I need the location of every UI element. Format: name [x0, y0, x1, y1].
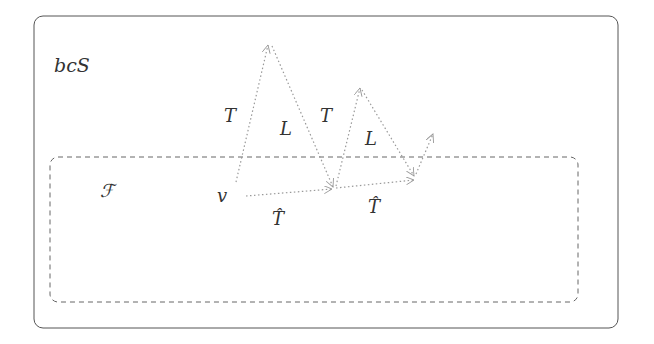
edge-label-l1: L — [279, 118, 292, 139]
arrow-t3 — [416, 134, 433, 174]
arrow-t2 — [336, 88, 360, 186]
edge-label-l2: L — [364, 128, 377, 149]
inner-region-box — [50, 157, 578, 302]
outer-region-label: bcS — [54, 54, 90, 76]
diagram-canvas: bcS ℱ v T L T L T̂ T̂ — [0, 0, 654, 344]
arrow-that2 — [336, 180, 414, 188]
edge-arrows — [236, 45, 433, 196]
arrow-that1 — [246, 189, 332, 196]
edge-label-t2: T — [320, 105, 334, 126]
start-vertex-label: v — [217, 185, 227, 206]
arrow-t1 — [236, 45, 268, 182]
edge-label-that2: T̂ — [368, 196, 382, 217]
edge-label-t1: T — [224, 105, 238, 126]
inner-region-label: ℱ — [100, 180, 117, 201]
edge-label-that1: T̂ — [272, 208, 286, 229]
